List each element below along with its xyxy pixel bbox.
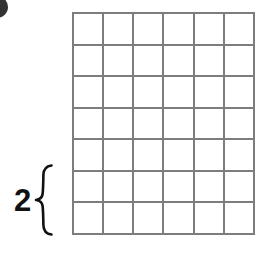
grid-cell[interactable] bbox=[224, 45, 254, 77]
grid-cell[interactable] bbox=[194, 76, 224, 108]
table-row bbox=[73, 139, 254, 171]
grid-cell[interactable] bbox=[224, 76, 254, 108]
row-count-label: 2 bbox=[14, 185, 31, 216]
grid-cell[interactable] bbox=[103, 202, 133, 234]
table-row bbox=[73, 108, 254, 140]
table-row bbox=[73, 76, 254, 108]
grid-container bbox=[72, 12, 255, 235]
grid-table bbox=[72, 12, 255, 235]
grid-cell[interactable] bbox=[103, 108, 133, 140]
grid-cell[interactable] bbox=[73, 13, 103, 45]
grid-cell[interactable] bbox=[224, 13, 254, 45]
grid-cell[interactable] bbox=[103, 45, 133, 77]
grid-cell[interactable] bbox=[163, 45, 193, 77]
grid-cell[interactable] bbox=[224, 139, 254, 171]
grid-cell[interactable] bbox=[194, 202, 224, 234]
filled-circle-icon bbox=[0, 0, 8, 18]
grid-cell[interactable] bbox=[194, 13, 224, 45]
brace-label-group: 2 bbox=[14, 163, 72, 237]
grid-cell[interactable] bbox=[163, 76, 193, 108]
grid-cell[interactable] bbox=[163, 108, 193, 140]
grid-cell[interactable] bbox=[133, 139, 163, 171]
grid-cell[interactable] bbox=[224, 202, 254, 234]
grid-cell[interactable] bbox=[224, 108, 254, 140]
grid-cell[interactable] bbox=[133, 171, 163, 203]
grid-cell[interactable] bbox=[163, 202, 193, 234]
grid-cell[interactable] bbox=[133, 76, 163, 108]
table-row bbox=[73, 13, 254, 45]
grid-cell[interactable] bbox=[163, 13, 193, 45]
grid-cell[interactable] bbox=[194, 139, 224, 171]
grid-cell[interactable] bbox=[73, 171, 103, 203]
grid-cell[interactable] bbox=[73, 108, 103, 140]
grid-cell[interactable] bbox=[194, 108, 224, 140]
grid-cell[interactable] bbox=[73, 76, 103, 108]
grid-cell[interactable] bbox=[133, 13, 163, 45]
grid-cell[interactable] bbox=[73, 45, 103, 77]
table-row bbox=[73, 202, 254, 234]
grid-cell[interactable] bbox=[133, 45, 163, 77]
grid-cell[interactable] bbox=[73, 139, 103, 171]
grid-cell[interactable] bbox=[103, 171, 133, 203]
grid-cell[interactable] bbox=[103, 76, 133, 108]
grid-cell[interactable] bbox=[194, 171, 224, 203]
table-row bbox=[73, 171, 254, 203]
grid-cell[interactable] bbox=[224, 171, 254, 203]
grid-cell[interactable] bbox=[103, 13, 133, 45]
grid-cell[interactable] bbox=[133, 108, 163, 140]
figure-canvas: 2 bbox=[0, 0, 262, 255]
left-curly-brace-icon bbox=[33, 163, 55, 237]
table-row bbox=[73, 45, 254, 77]
grid-cell[interactable] bbox=[103, 139, 133, 171]
grid-cell[interactable] bbox=[73, 202, 103, 234]
grid-cell[interactable] bbox=[163, 171, 193, 203]
grid-cell[interactable] bbox=[163, 139, 193, 171]
grid-cell[interactable] bbox=[133, 202, 163, 234]
grid-cell[interactable] bbox=[194, 45, 224, 77]
